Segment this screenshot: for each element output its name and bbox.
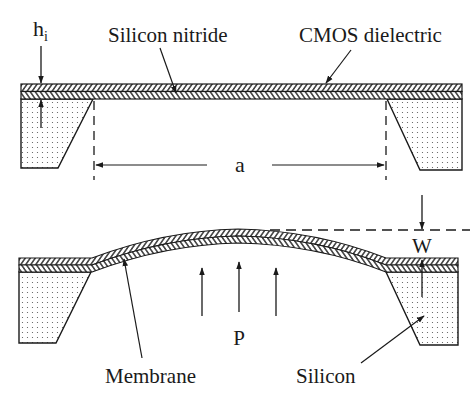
width-label: a — [235, 152, 245, 177]
silicon-pointer — [361, 316, 424, 363]
bottom-cross-section: W P Membrane Silicon — [19, 195, 470, 388]
silicon-label: Silicon — [296, 364, 356, 388]
cmos-dielectric-label: CMOS dielectric — [299, 23, 442, 47]
silicon-left-support — [21, 99, 93, 168]
silicon-nitride-label: Silicon nitride — [108, 23, 228, 47]
membrane-pointer — [124, 259, 142, 358]
pressure-label: P — [233, 326, 245, 350]
thickness-symbol: h — [33, 16, 44, 41]
deflected-nitride-layer — [19, 229, 458, 265]
membrane-label: Membrane — [105, 364, 196, 388]
cmos-dielectric-pointer — [326, 50, 351, 83]
silicon-nitride-layer — [21, 84, 462, 92]
silicon-right-support — [387, 99, 462, 170]
thickness-label: hi — [33, 16, 48, 44]
top-cross-section: a hi Silicon nitride CMOS dielectric — [21, 16, 462, 180]
silicon-left-support-deflected — [19, 272, 91, 343]
deflection-label: W — [412, 234, 432, 258]
membrane-diagram: a hi Silicon nitride CMOS dielectric W — [0, 0, 475, 398]
thickness-subscript: i — [44, 29, 48, 44]
cmos-dielectric-layer — [21, 92, 462, 100]
